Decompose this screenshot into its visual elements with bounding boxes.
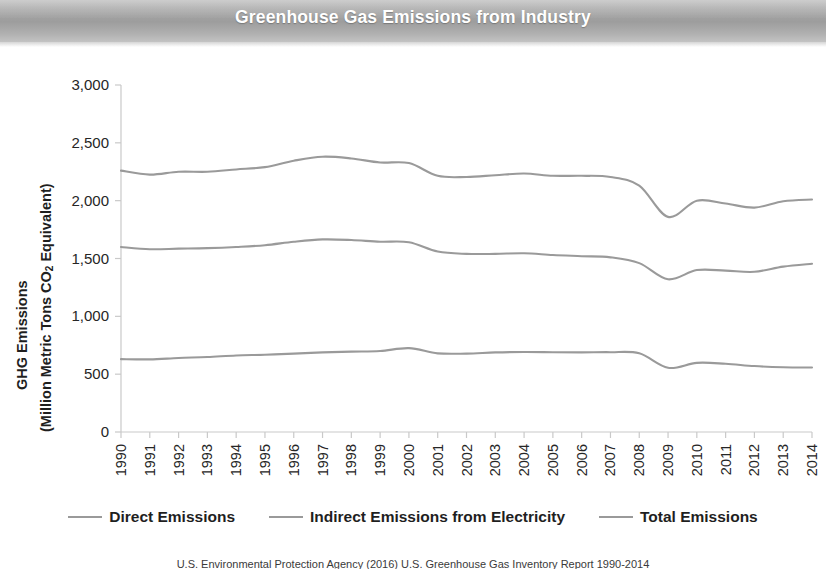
x-tick-label: 2003 <box>487 444 503 476</box>
y-tick-label: 1,000 <box>71 307 109 324</box>
legend-item-total[interactable]: Total Emissions <box>599 508 758 526</box>
x-tick-label: 2001 <box>430 444 446 476</box>
x-tick-label: 1990 <box>113 444 129 476</box>
x-tick-label: 2007 <box>602 444 618 476</box>
series-line <box>121 239 812 279</box>
x-tick-label: 2009 <box>660 444 676 476</box>
y-tick-label: 0 <box>101 423 109 440</box>
legend-line-swatch-total <box>599 516 633 518</box>
x-axis-ticks <box>121 432 812 438</box>
x-tick-label: 1996 <box>286 444 302 476</box>
x-tick-label: 2010 <box>689 444 705 476</box>
legend-line-swatch-direct <box>68 516 102 518</box>
y-tick-label: 2,500 <box>71 134 109 151</box>
legend-label-direct: Direct Emissions <box>109 508 235 526</box>
x-tick-label: 1994 <box>228 444 244 476</box>
x-tick-label: 2013 <box>775 444 791 476</box>
legend-item-indirect[interactable]: Indirect Emissions from Electricity <box>269 508 565 526</box>
series-line <box>121 348 812 368</box>
chart-svg: 05001,0001,5002,0002,5003,000 1990199119… <box>0 0 826 569</box>
x-tick-label: 1991 <box>142 444 158 476</box>
x-tick-label: 2012 <box>746 444 762 476</box>
chart-legend: Direct Emissions Indirect Emissions from… <box>0 508 826 526</box>
legend-label-total: Total Emissions <box>640 508 758 526</box>
y-axis-ticks: 05001,0001,5002,0002,5003,000 <box>71 76 121 440</box>
x-tick-label: 2004 <box>516 444 532 476</box>
data-series-group <box>121 157 812 368</box>
y-tick-label: 1,500 <box>71 250 109 267</box>
x-tick-label: 1995 <box>257 444 273 476</box>
source-caption: U.S. Environmental Protection Agency (20… <box>0 558 826 569</box>
x-tick-label: 1993 <box>199 444 215 476</box>
x-tick-label: 1999 <box>372 444 388 476</box>
x-tick-label: 2005 <box>545 444 561 476</box>
plot-area: 05001,0001,5002,0002,5003,000 1990199119… <box>0 0 826 569</box>
x-tick-label: 1998 <box>343 444 359 476</box>
x-tick-label: 1992 <box>171 444 187 476</box>
legend-label-indirect: Indirect Emissions from Electricity <box>310 508 565 526</box>
x-tick-label: 2008 <box>631 444 647 476</box>
series-line <box>121 157 812 217</box>
y-tick-label: 500 <box>84 365 109 382</box>
x-tick-label: 1997 <box>315 444 331 476</box>
y-tick-label: 3,000 <box>71 76 109 93</box>
y-tick-label: 2,000 <box>71 192 109 209</box>
legend-line-swatch-indirect <box>269 516 303 518</box>
x-tick-label: 2000 <box>401 444 417 476</box>
x-tick-label: 2014 <box>804 444 820 476</box>
legend-item-direct[interactable]: Direct Emissions <box>68 508 235 526</box>
x-tick-label: 2006 <box>574 444 590 476</box>
x-axis-labels: 1990199119921993199419951996199719981999… <box>113 444 820 476</box>
x-tick-label: 2002 <box>459 444 475 476</box>
x-tick-label: 2011 <box>718 444 734 475</box>
